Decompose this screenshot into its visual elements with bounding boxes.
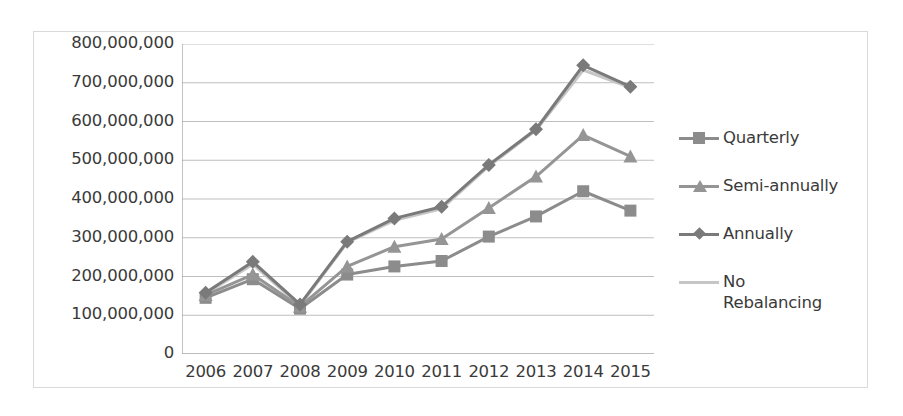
legend-entry-semi-annually[interactable]: Semi-annually — [679, 175, 864, 197]
legend-label: No Rebalancing — [723, 271, 822, 313]
legend-label: Semi-annually — [723, 175, 838, 196]
y-tick-label: 200,000,000 — [71, 266, 174, 285]
plot-area — [182, 44, 654, 354]
y-tick-label: 700,000,000 — [71, 72, 174, 91]
x-tick-label: 2007 — [232, 362, 273, 381]
legend-swatch — [679, 223, 719, 245]
legend-entry-annually[interactable]: Annually — [679, 223, 864, 245]
data-point — [530, 210, 542, 222]
y-tick-label: 500,000,000 — [71, 149, 174, 168]
data-point — [388, 260, 400, 272]
data-point — [436, 255, 448, 267]
chart-container: 800,000,000700,000,000600,000,000500,000… — [33, 31, 868, 388]
chart-legend: QuarterlySemi-annuallyAnnuallyNo Rebalan… — [679, 127, 864, 319]
legend-label: Annually — [723, 223, 793, 244]
x-tick-label: 2012 — [468, 362, 509, 381]
data-point — [624, 205, 636, 217]
series-no-rebalancing — [206, 70, 631, 306]
x-tick-label: 2010 — [374, 362, 415, 381]
y-tick-label: 100,000,000 — [71, 304, 174, 323]
legend-marker-square-icon — [693, 132, 705, 144]
data-point — [577, 185, 589, 197]
legend-line — [679, 281, 719, 284]
y-tick-label: 300,000,000 — [71, 227, 174, 246]
y-axis-tick-labels: 800,000,000700,000,000600,000,000500,000… — [34, 44, 174, 354]
data-point — [483, 231, 495, 243]
series-quarterly — [200, 185, 637, 314]
legend-marker-diamond-icon — [693, 227, 706, 240]
legend-label: Quarterly — [723, 127, 799, 148]
x-tick-label: 2013 — [516, 362, 557, 381]
legend-entry-no-rebalancing[interactable]: No Rebalancing — [679, 271, 864, 293]
data-point — [623, 149, 637, 162]
x-tick-label: 2015 — [610, 362, 651, 381]
x-tick-label: 2006 — [185, 362, 226, 381]
y-tick-label: 400,000,000 — [71, 188, 174, 207]
x-tick-label: 2014 — [563, 362, 604, 381]
y-tick-label: 0 — [164, 343, 174, 362]
x-axis-tick-labels: 2006200720082009201020112012201320142015 — [182, 362, 654, 390]
legend-marker-triangle-icon — [693, 180, 707, 192]
series-annually — [199, 58, 638, 311]
x-tick-label: 2008 — [280, 362, 321, 381]
x-tick-label: 2009 — [327, 362, 368, 381]
y-tick-label: 800,000,000 — [71, 33, 174, 52]
y-tick-label: 600,000,000 — [71, 111, 174, 130]
data-point — [623, 80, 637, 94]
x-tick-label: 2011 — [421, 362, 462, 381]
legend-swatch — [679, 175, 719, 197]
legend-swatch — [679, 127, 719, 149]
data-point — [576, 128, 590, 141]
legend-entry-quarterly[interactable]: Quarterly — [679, 127, 864, 149]
legend-swatch — [679, 271, 719, 293]
data-series-layer — [182, 44, 654, 354]
